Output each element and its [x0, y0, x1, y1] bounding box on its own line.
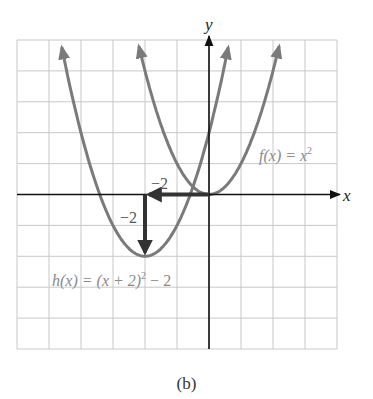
f-curve-right-arm	[209, 46, 279, 194]
figure-caption: (b)	[0, 374, 373, 394]
y-axis-label: y	[203, 15, 213, 34]
h-label: h(x) = (x + 2)2 − 2	[52, 270, 171, 290]
f-label-exponent: 2	[307, 145, 312, 156]
figure: y x f(x) = x2 h(x) = (x + 2)2 − 2 −2 −2 …	[0, 0, 373, 399]
curves	[62, 46, 279, 256]
vertical-shift-label: −2	[120, 209, 137, 226]
f-label-text: f(x) = x	[259, 147, 307, 165]
labels: y x f(x) = x2 h(x) = (x + 2)2 − 2 −2 −2	[52, 15, 351, 290]
x-axis-label: x	[342, 186, 351, 205]
coordinate-plot: y x f(x) = x2 h(x) = (x + 2)2 − 2 −2 −2	[0, 0, 373, 399]
horizontal-shift-label: −2	[151, 175, 168, 192]
f-label: f(x) = x2	[259, 145, 312, 165]
h-label-text: h(x) = (x + 2)	[52, 272, 141, 290]
h-label-suffix: − 2	[146, 272, 171, 289]
